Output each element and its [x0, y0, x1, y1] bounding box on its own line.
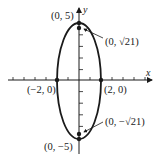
- y-axis-ticks: [79, 35, 83, 127]
- ellipse-diagram: y x (0, 5) (0, √21) (−2, 0) (2, 0) (0, −…: [0, 0, 157, 158]
- top-focus-point: [77, 26, 81, 30]
- bottom-focus-label: (0, −√21): [105, 116, 145, 128]
- right-covertex-label: (2, 0): [104, 84, 127, 96]
- top-vertex-label: (0, 5): [51, 10, 74, 22]
- left-covertex-label: (−2, 0): [27, 84, 56, 96]
- left-covertex-point: [55, 78, 59, 82]
- top-focus-label: (0, √21): [105, 36, 139, 48]
- bottom-vertex-label: (0, −5): [44, 141, 73, 153]
- x-axis-label: x: [145, 67, 151, 78]
- bottom-focus-point: [77, 132, 81, 136]
- right-covertex-point: [99, 78, 103, 82]
- y-axis-label: y: [82, 4, 88, 15]
- top-vertex-point: [77, 21, 81, 25]
- bottom-vertex-point: [77, 137, 81, 141]
